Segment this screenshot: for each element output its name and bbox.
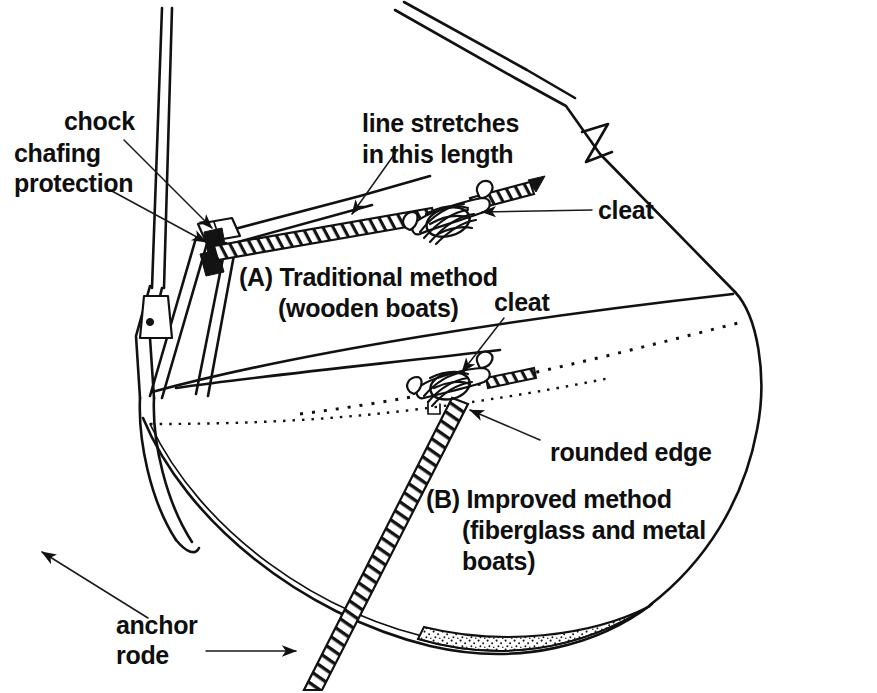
- label-chock: chock: [64, 107, 135, 135]
- label-rounded-edge: rounded edge: [550, 438, 712, 466]
- label-line-stretches-2: in this length: [362, 140, 513, 168]
- toe-rail-ticks: [300, 322, 742, 414]
- label-method-b-2: (fiberglass and metal: [462, 516, 706, 544]
- stem-head-fitting: [136, 286, 199, 552]
- label-line-stretches-1: line stretches: [362, 109, 519, 137]
- arrow-icon-chafing: [110, 190, 206, 242]
- arrow-icon-cleat-top: [482, 210, 592, 212]
- label-method-b-3: boats): [462, 547, 535, 575]
- label-cleat-top: cleat: [598, 196, 654, 224]
- label-cleat-bottom: cleat: [494, 288, 550, 316]
- anchor-rode-upper: [214, 176, 545, 260]
- label-method-b-1: (B) Improved method: [426, 485, 672, 513]
- forestay: [152, 8, 172, 288]
- horn-cleat-traditional[interactable]: [403, 181, 492, 244]
- label-protection: protection: [14, 169, 133, 197]
- label-anchor-1: anchor: [116, 611, 198, 639]
- waterline-dotted: [150, 378, 610, 424]
- label-chafing: chafing: [14, 139, 101, 167]
- arrow-icon-anchor-rode-upper: [42, 552, 148, 618]
- technical-diagram: chock chafing protection line stretches …: [0, 0, 877, 693]
- hull-outline: [143, 2, 761, 654]
- label-method-a-1: (A) Traditional method: [239, 263, 498, 291]
- break-mark-icon: [582, 124, 612, 162]
- arrow-icon-rounded-edge: [470, 410, 540, 440]
- label-method-a-2: (wooden boats): [278, 294, 459, 322]
- label-anchor-2: rode: [116, 641, 169, 669]
